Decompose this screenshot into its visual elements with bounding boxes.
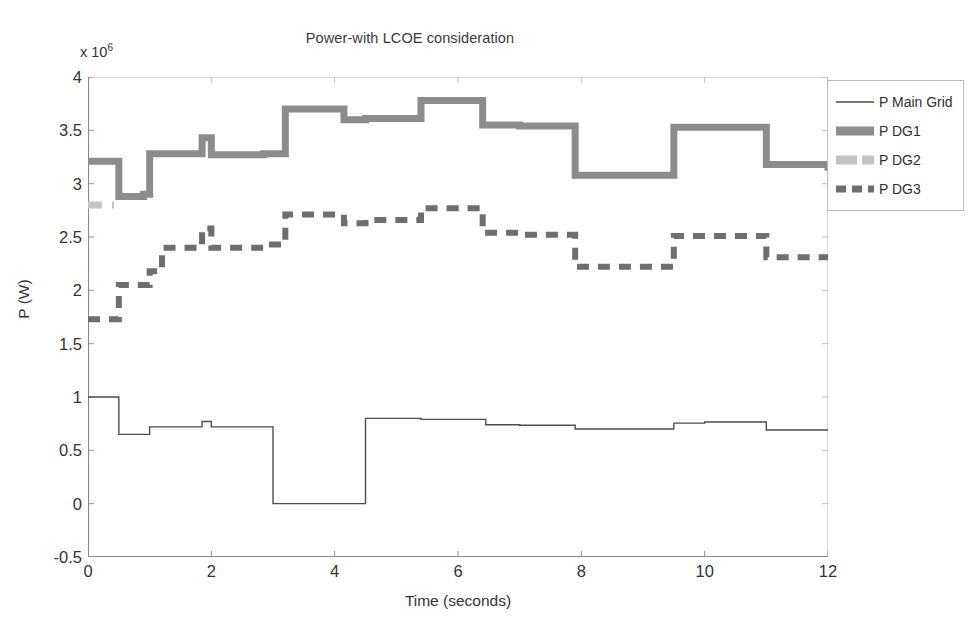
x-tick-label: 6 bbox=[453, 562, 462, 581]
y-axis-tick-labels: -0.500.511.522.533.54 bbox=[30, 77, 82, 557]
y-tick-label: 0.5 bbox=[36, 441, 82, 460]
x-tick-label: 8 bbox=[577, 562, 586, 581]
x-axis-tick-labels: 024681012 bbox=[88, 562, 828, 586]
legend-swatch-icon bbox=[835, 153, 875, 167]
x-tick-label: 4 bbox=[330, 562, 339, 581]
plot-svg bbox=[88, 77, 828, 557]
y-tick-label: 4 bbox=[36, 68, 82, 87]
x-tick-label: 0 bbox=[83, 562, 92, 581]
legend-item-p-dg2[interactable]: P DG2 bbox=[835, 145, 957, 174]
y-tick-label: -0.5 bbox=[36, 548, 82, 567]
series-line-p-dg3 bbox=[88, 208, 828, 319]
y-tick-label: 1 bbox=[36, 388, 82, 407]
series-layer bbox=[88, 100, 828, 503]
chart-title: Power-with LCOE consideration bbox=[0, 30, 820, 46]
y-tick-label: 3.5 bbox=[36, 121, 82, 140]
x-tick-label: 12 bbox=[819, 562, 837, 581]
legend-item-label: P DG1 bbox=[879, 123, 921, 139]
y-axis-label: P (W) bbox=[15, 239, 33, 359]
plot-area bbox=[88, 77, 828, 557]
x-axis-label: Time (seconds) bbox=[88, 592, 828, 610]
legend-item-label: P DG2 bbox=[879, 152, 921, 168]
legend-swatch-icon bbox=[835, 182, 875, 196]
y-tick-label: 3 bbox=[36, 174, 82, 193]
y-tick-label: 2.5 bbox=[36, 228, 82, 247]
y-tick-label: 2 bbox=[36, 281, 82, 300]
legend-item-p-dg3[interactable]: P DG3 bbox=[835, 174, 957, 203]
legend-swatch-icon bbox=[835, 95, 875, 109]
legend-item-label: P Main Grid bbox=[879, 94, 953, 110]
legend-item-label: P DG3 bbox=[879, 181, 921, 197]
x-tick-label: 2 bbox=[207, 562, 216, 581]
y-axis-exponent-power: 6 bbox=[107, 42, 113, 53]
series-line-p-main-grid bbox=[88, 397, 828, 504]
series-line-p-dg1 bbox=[88, 100, 828, 196]
legend-item-p-dg1[interactable]: P DG1 bbox=[835, 116, 957, 145]
y-tick-label: 1.5 bbox=[36, 334, 82, 353]
legend-swatch-icon bbox=[835, 124, 875, 138]
chart-figure: Power-with LCOE consideration x 106 -0.5… bbox=[0, 0, 974, 641]
chart-legend: P Main GridP DG1P DG2P DG3 bbox=[827, 80, 964, 211]
y-axis-exponent-base: x 10 bbox=[80, 44, 107, 60]
legend-item-p-main-grid[interactable]: P Main Grid bbox=[835, 87, 957, 116]
x-tick-label: 10 bbox=[695, 562, 713, 581]
y-axis-exponent: x 106 bbox=[80, 42, 113, 60]
y-tick-label: 0 bbox=[36, 494, 82, 513]
